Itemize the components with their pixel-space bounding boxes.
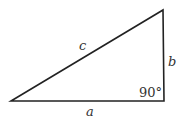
label-leg-a: a <box>86 104 94 119</box>
label-hypotenuse-c: c <box>79 38 87 53</box>
right-triangle-diagram: c b a 90° <box>0 0 183 122</box>
label-right-angle: 90° <box>139 85 162 100</box>
label-leg-b: b <box>168 54 176 69</box>
